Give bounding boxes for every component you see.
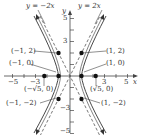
arrow-ur bbox=[100, 14, 104, 20]
point-label-neg-sqrt5: (−√5, 0) bbox=[24, 86, 53, 93]
y-tick-5: 5 bbox=[63, 15, 67, 22]
point-label-1-neg2: (1, −2) bbox=[101, 100, 126, 107]
asymptote-pos-label: y = 2x bbox=[78, 3, 101, 10]
x-tick-5: 5 bbox=[124, 79, 128, 86]
x-tick-neg5: −5 bbox=[8, 79, 18, 86]
point-label-1-0: (1, 0) bbox=[106, 60, 125, 67]
x-axis-label: x bbox=[133, 79, 137, 86]
arrow-ul bbox=[36, 14, 40, 20]
point-label-1-2: (1, 2) bbox=[106, 48, 125, 55]
arrow-dl bbox=[36, 129, 40, 135]
y-axis-arrow bbox=[68, 10, 72, 15]
point-label-sqrt5: (√5, 0) bbox=[90, 86, 113, 93]
y-tick-3: 3 bbox=[63, 38, 67, 45]
point-label-neg1-0: (−1, 0) bbox=[9, 60, 34, 67]
graph-canvas bbox=[0, 0, 142, 135]
y-tick-neg3: −3 bbox=[60, 105, 70, 112]
point-label-neg1-2: (−1, 2) bbox=[11, 48, 36, 55]
arrow-dr bbox=[100, 129, 104, 135]
y-tick-neg5: −5 bbox=[60, 128, 70, 135]
asymptote-neg-label: y = −2x bbox=[26, 3, 55, 10]
point-label-neg1-neg2: (−1, −2) bbox=[6, 100, 37, 107]
